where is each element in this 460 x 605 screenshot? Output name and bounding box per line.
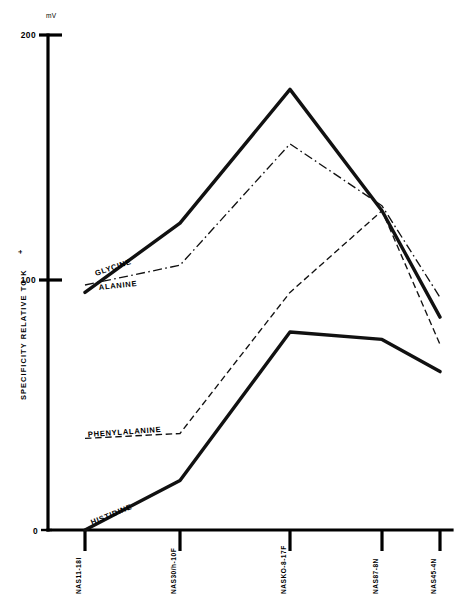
series-layer: [85, 89, 440, 530]
y-tick-label-0: 0: [33, 526, 38, 536]
y-axis-title-superscript: +: [16, 249, 25, 254]
x-tick-label-3-group: NAS87-8N: [372, 558, 379, 594]
x-tick-label-0: NAS11-18I: [75, 557, 82, 594]
x-tick-label-2: NASKO-8-17F: [280, 545, 287, 594]
x-tick-label-0-group: NAS11-18I: [75, 557, 82, 594]
y-axis-title: SPECIFICITY RELATIVE TO K +: [16, 249, 28, 400]
x-tick-label-4: NAS45-4N: [430, 558, 437, 594]
y-tick-label-200: 200: [21, 30, 36, 40]
series-line-phenylalanine: [85, 211, 440, 439]
x-tick-label-3: NAS87-8N: [372, 558, 379, 594]
series-label-glycine-group: GLYCINE: [94, 257, 133, 278]
series-label-phenylalanine: PHENYLALANINE: [88, 425, 162, 439]
y-axis-unit: mV: [46, 12, 57, 19]
series-label-phenylalanine-group: PHENYLALANINE: [88, 425, 162, 439]
x-tick-label-2-group: NASKO-8-17F: [280, 545, 287, 594]
series-label-histidine: HISTIDINE: [89, 502, 133, 527]
y-axis-title-text: SPECIFICITY RELATIVE TO K: [19, 269, 28, 400]
x-tick-label-1: NAS30/h-10F: [170, 548, 177, 594]
series-label-histidine-group: HISTIDINE: [89, 502, 133, 527]
chart-container: 200 100 0 mV SPECIFICITY RELATIVE TO K +…: [0, 0, 460, 605]
line-chart: 200 100 0 mV SPECIFICITY RELATIVE TO K +…: [0, 0, 460, 605]
axes: [39, 35, 452, 551]
series-label-glycine: GLYCINE: [94, 257, 133, 278]
series-line-glycine: [85, 89, 440, 317]
x-tick-label-1-group: NAS30/h-10F: [170, 548, 177, 594]
x-tick-label-4-group: NAS45-4N: [430, 558, 437, 594]
